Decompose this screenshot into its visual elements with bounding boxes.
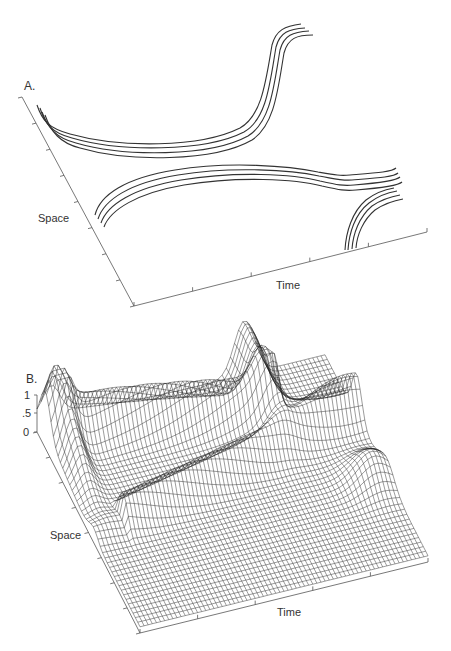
panel-a: A. Space Time (18, 24, 427, 307)
wave-contour-bundle-1 (37, 24, 313, 158)
panel-a-time-label: Time (276, 279, 300, 291)
z-tick-0: 0 (23, 426, 29, 438)
panel-b-z-axis: 1 .5 0 (22, 389, 37, 438)
figure: A. Space Time B (0, 0, 451, 651)
panel-a-time-axis (134, 228, 427, 306)
panel-b: B. 1 .5 0 Space Time (22, 322, 428, 635)
panel-a-space-label: Space (38, 212, 69, 224)
wave-contour-bundle-2 (95, 165, 402, 227)
wireframe-surface (37, 322, 428, 627)
z-tick-0.5: .5 (22, 407, 31, 419)
wave-contour-bundle-3 (345, 188, 403, 250)
panel-a-space-axis (18, 97, 134, 307)
panel-b-time-label: Time (277, 606, 301, 618)
panel-a-label: A. (24, 79, 35, 93)
panel-b-space-label: Space (50, 529, 81, 541)
z-tick-1: 1 (24, 389, 30, 401)
panel-b-label: B. (26, 372, 37, 386)
